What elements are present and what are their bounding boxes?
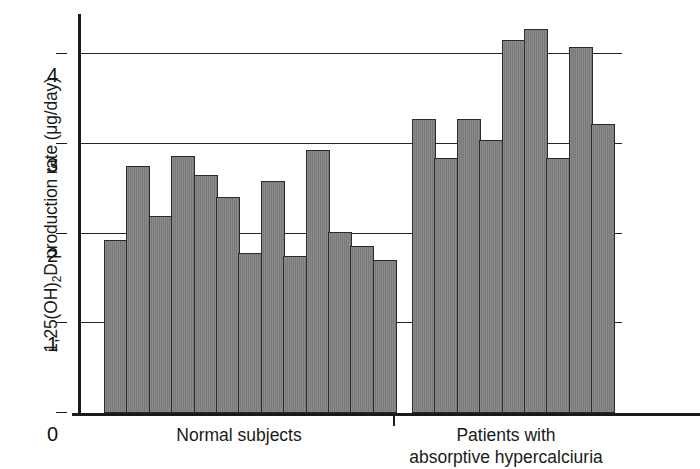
bar [171,156,195,413]
y-tick-label: 1 [24,334,58,354]
bar [373,260,397,413]
bar [479,140,503,413]
bar [261,181,285,413]
bar [457,119,481,413]
y-tick-label: 2 [24,245,58,265]
group-label-line: Normal subjects [104,424,374,446]
bar [238,253,262,413]
bar [104,240,128,413]
y-tick-label: 3 [24,155,58,175]
bar [591,124,615,413]
y-tick-mark-4 [56,53,67,54]
group-label-line: absorptive hypercalciuria [390,446,622,468]
group-label-line: Patients with [390,424,622,446]
bar [350,246,374,413]
x-axis-group-label-patients: Patients with absorptive hypercalciuria [390,424,622,468]
y-tick-mark-0 [56,412,67,413]
bar [569,47,593,413]
y-tick-mark-2 [56,233,67,234]
bar [546,158,570,413]
bar [328,232,352,413]
y-tick-label: 0 [24,424,58,444]
x-axis-line [72,413,700,416]
plot-area [78,14,622,413]
bar [524,29,548,413]
bar [149,216,173,413]
bar [216,197,240,413]
bar [194,175,218,414]
x-axis-group-label-normal: Normal subjects [104,424,374,446]
y-tick-label: 4 [24,65,58,85]
bar [434,158,458,413]
y-tick-mark-1 [56,322,67,323]
bar [126,166,150,413]
y-tick-mark-3 [56,143,67,144]
bar [502,40,526,413]
bar [412,119,436,413]
y-axis-ticks: 01234 [0,14,66,413]
bar [306,150,330,413]
bar [283,256,307,413]
y-axis-line [78,14,81,413]
